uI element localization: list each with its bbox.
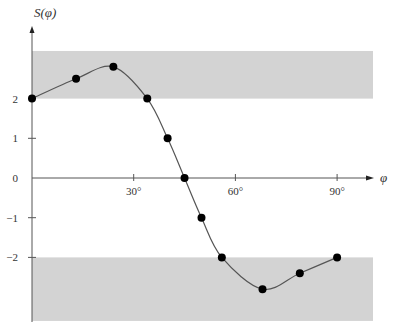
x-axis-label: φ bbox=[380, 170, 387, 185]
y-tick-label: 0 bbox=[13, 172, 19, 184]
y-tick-label: 1 bbox=[13, 132, 19, 144]
data-point bbox=[198, 214, 206, 222]
data-point bbox=[72, 75, 80, 83]
data-point bbox=[218, 253, 226, 261]
x-tick-label: 60° bbox=[228, 185, 243, 197]
x-tick-label: 90° bbox=[329, 185, 344, 197]
lower-shaded-band bbox=[32, 257, 373, 321]
y-axis-arrow-icon bbox=[30, 26, 35, 33]
y-axis-label: S(φ) bbox=[34, 5, 56, 20]
shaded-bands bbox=[32, 51, 373, 321]
chart: 30°60°90°210−1−2 S(φ) φ bbox=[0, 0, 400, 327]
y-tick-label: −1 bbox=[6, 212, 18, 224]
data-point bbox=[181, 174, 189, 182]
x-tick-label: 30° bbox=[126, 185, 141, 197]
y-tick-label: −2 bbox=[6, 251, 18, 263]
data-point bbox=[143, 95, 151, 103]
upper-shaded-band bbox=[32, 51, 373, 99]
data-point bbox=[109, 63, 117, 71]
data-point bbox=[296, 269, 304, 277]
data-point bbox=[259, 285, 267, 293]
data-point bbox=[333, 253, 341, 261]
y-tick-label: 2 bbox=[13, 93, 19, 105]
x-axis-arrow-icon bbox=[366, 176, 374, 181]
data-point bbox=[164, 134, 172, 142]
data-point bbox=[28, 95, 36, 103]
